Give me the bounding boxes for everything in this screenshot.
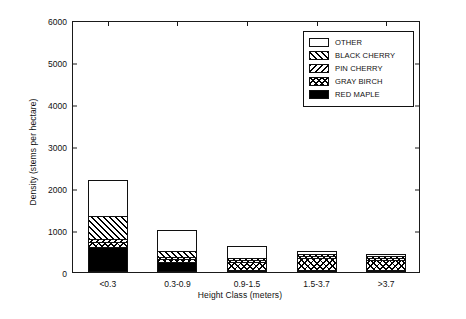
bar-segment[interactable] [366, 260, 406, 270]
y-tick-mark [415, 190, 419, 191]
bar-segment[interactable] [157, 262, 197, 273]
bar-segment[interactable] [88, 180, 128, 216]
bar-stack[interactable] [297, 251, 337, 272]
chart-legend: OTHERBLACK CHERRYPIN CHERRYGRAY BIRCHRED… [303, 31, 414, 107]
y-tick-mark [73, 232, 77, 233]
bar-segment[interactable] [88, 216, 128, 240]
legend-item[interactable]: BLACK CHERRY [309, 49, 408, 62]
x-tick-mark [386, 22, 387, 26]
legend-swatch-icon [309, 51, 329, 60]
legend-item-label: RED MAPLE [335, 90, 380, 99]
bar-segment[interactable] [297, 270, 337, 272]
y-tick-mark [415, 232, 419, 233]
bar-stack[interactable] [88, 180, 128, 272]
bar-segment[interactable] [88, 247, 128, 272]
chart-figure: Density (stems per hectare) Height Class… [0, 0, 466, 319]
legend-swatch-icon [309, 77, 329, 86]
y-tick-mark [73, 64, 77, 65]
y-tick-mark [415, 106, 419, 107]
y-tick-mark [73, 190, 77, 191]
bar-segment[interactable] [366, 270, 406, 272]
x-tick-label: >3.7 [378, 279, 395, 289]
legend-swatch-icon [309, 38, 329, 47]
legend-item-label: OTHER [335, 38, 362, 47]
bar-segment[interactable] [227, 262, 267, 270]
y-tick-mark [73, 106, 77, 107]
x-tick-label: 0.3-0.9 [164, 279, 190, 289]
bar-segment[interactable] [227, 246, 267, 258]
y-tick-label: 6000 [48, 17, 73, 27]
y-tick-label: 1000 [48, 227, 73, 237]
bar-stack[interactable] [366, 254, 406, 272]
x-tick-mark [108, 22, 109, 26]
legend-item-label: GRAY BIRCH [335, 77, 383, 86]
legend-item[interactable]: RED MAPLE [309, 88, 408, 101]
legend-item-label: BLACK CHERRY [335, 51, 395, 60]
bar-segment[interactable] [227, 270, 267, 272]
y-tick-label: 0 [62, 269, 73, 279]
legend-swatch-icon [309, 90, 329, 99]
y-tick-label: 4000 [48, 101, 73, 111]
legend-item[interactable]: OTHER [309, 36, 408, 49]
legend-swatch-icon [309, 64, 329, 73]
x-tick-mark [177, 22, 178, 26]
bar-stack[interactable] [157, 230, 197, 272]
legend-item[interactable]: GRAY BIRCH [309, 75, 408, 88]
x-axis-title: Height Class (meters) [70, 290, 410, 300]
y-tick-label: 5000 [48, 59, 73, 69]
bar-segment[interactable] [297, 258, 337, 270]
y-axis-title: Density (stems per hectare) [28, 57, 38, 247]
y-tick-label: 2000 [48, 185, 73, 195]
x-tick-label: 1.5-3.7 [303, 279, 329, 289]
x-tick-label: 0.9-1.5 [234, 279, 260, 289]
y-tick-label: 3000 [48, 143, 73, 153]
bar-stack[interactable] [227, 246, 267, 272]
x-tick-mark [247, 22, 248, 26]
y-tick-mark [415, 148, 419, 149]
x-tick-mark [317, 22, 318, 26]
legend-item[interactable]: PIN CHERRY [309, 62, 408, 75]
x-tick-label: <0.3 [99, 279, 116, 289]
bar-segment[interactable] [157, 230, 197, 251]
y-tick-mark [73, 148, 77, 149]
y-tick-mark [415, 64, 419, 65]
legend-item-label: PIN CHERRY [335, 64, 383, 73]
